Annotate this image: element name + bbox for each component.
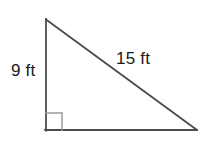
right-triangle-figure: 9 ft 15 ft	[0, 0, 204, 155]
hypotenuse-label: 15 ft	[116, 50, 150, 67]
vertical-leg-label: 9 ft	[11, 62, 35, 79]
right-angle-marker-icon	[46, 113, 62, 130]
hypotenuse-line	[46, 20, 197, 131]
